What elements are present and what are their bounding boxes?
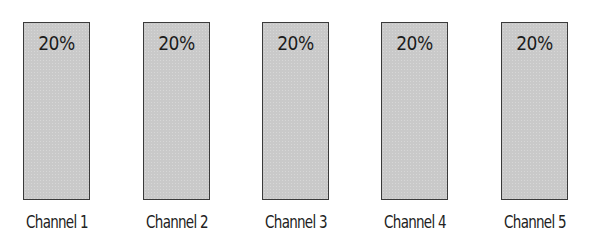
channel-bar: 20% xyxy=(23,22,90,200)
channel-label: Channel 2 xyxy=(124,212,230,232)
channel-bar: 20% xyxy=(262,22,329,200)
channel-share: 20% xyxy=(144,32,209,54)
channel-label: Channel 4 xyxy=(362,212,468,232)
channel-1: 20% Channel 1 xyxy=(0,0,120,250)
channel-label: Channel 3 xyxy=(243,212,349,232)
channel-share: 20% xyxy=(263,32,328,54)
channel-label: Channel 5 xyxy=(482,212,588,232)
channel-share: 20% xyxy=(382,32,447,54)
channel-5: 20% Channel 5 xyxy=(478,0,596,250)
channel-share: 20% xyxy=(502,32,567,54)
channel-label: Channel 1 xyxy=(4,212,110,232)
channel-share: 20% xyxy=(24,32,89,54)
channel-bar: 20% xyxy=(501,22,568,200)
channel-4: 20% Channel 4 xyxy=(358,0,478,250)
channel-2: 20% Channel 2 xyxy=(120,0,240,250)
channel-bar: 20% xyxy=(143,22,210,200)
channel-bar: 20% xyxy=(381,22,448,200)
channel-3: 20% Channel 3 xyxy=(239,0,359,250)
